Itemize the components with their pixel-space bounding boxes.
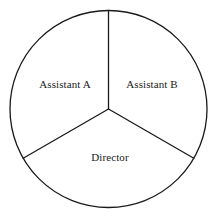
pie-chart-svg (0, 0, 218, 220)
sector-label-director: Director (91, 151, 128, 163)
sector-label-assistant-a: Assistant A (39, 78, 91, 90)
org-pie-diagram: Assistant A Assistant B Director (0, 0, 218, 220)
sector-label-assistant-b: Assistant B (126, 78, 178, 90)
